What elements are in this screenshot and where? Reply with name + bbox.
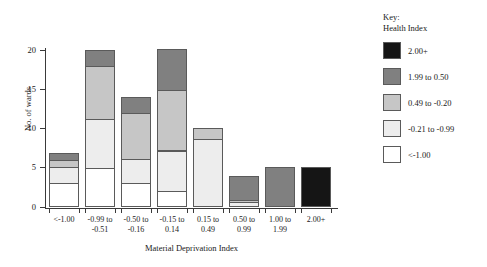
y-axis-title: No. of wards (23, 64, 33, 154)
x-tick-mark (259, 208, 260, 213)
legend-label: 1.99 to 0.50 (408, 72, 449, 82)
legend-label: <-1.00 (408, 150, 431, 160)
legend-swatch (383, 94, 401, 111)
x-axis-title: Material Deprivation Index (45, 243, 338, 253)
bar-segment (157, 151, 187, 193)
bar-stack (229, 176, 259, 207)
x-tick-mark (265, 208, 266, 213)
bar-segment (157, 49, 187, 91)
bar-segment (49, 167, 79, 184)
bar-segment (301, 167, 331, 207)
legend-label: 2.00+ (408, 46, 428, 56)
bar-segment (121, 113, 151, 160)
x-tick-mark (295, 208, 296, 213)
x-tick-mark (229, 208, 230, 213)
bar-segment (85, 168, 115, 207)
bars-container (46, 50, 334, 207)
x-tick-mark (85, 208, 86, 213)
y-tick-label-wrap: 10 (0, 129, 40, 130)
bar-segment (157, 191, 187, 207)
bar-segment (121, 97, 151, 113)
y-tick-label: 5 (6, 163, 36, 172)
legend-title-line-2: Health Index (383, 23, 487, 34)
legend-item: 0.49 to -0.20 (383, 93, 487, 112)
x-tick-mark (49, 208, 50, 213)
x-tick-label: 2.00+ (293, 215, 339, 225)
bar-segment (49, 183, 79, 207)
x-tick-mark (121, 208, 122, 213)
legend-label: -0.21 to -0.99 (408, 124, 454, 134)
legend-label: 0.49 to -0.20 (408, 98, 451, 108)
legend-items: 2.00+1.99 to 0.500.49 to -0.20-0.21 to -… (383, 41, 487, 164)
legend-item: 2.00+ (383, 41, 487, 60)
bar-stack (121, 97, 151, 207)
x-tick-mark (79, 208, 80, 213)
bar-segment (265, 167, 295, 207)
x-tick-mark (223, 208, 224, 213)
bar-stack (193, 128, 223, 207)
legend-swatch (383, 120, 401, 137)
stacked-bar-chart: 05101520 No. of wards <-1.00-0.99 to -0.… (0, 0, 487, 267)
bar-stack (157, 49, 187, 207)
y-tick-label-wrap: 0 (0, 207, 40, 208)
bar-stack (301, 167, 331, 207)
x-tick-mark (187, 208, 188, 213)
legend-item: -0.21 to -0.99 (383, 119, 487, 138)
legend-item: <-1.00 (383, 145, 487, 164)
y-tick-label-wrap: 15 (0, 89, 40, 90)
bar-segment (85, 50, 115, 66)
bar-segment (121, 183, 151, 207)
y-tick-label: 20 (6, 46, 36, 55)
y-tick-label-wrap: 5 (0, 168, 40, 169)
legend-swatch (383, 68, 401, 85)
y-tick-label-wrap: 20 (0, 50, 40, 51)
bar-segment (85, 119, 115, 168)
bar-segment (229, 176, 259, 200)
bar-segment (121, 159, 151, 184)
legend-swatch (383, 146, 401, 163)
bar-segment (229, 202, 259, 207)
bar-stack (265, 167, 295, 207)
x-tick-mark (301, 208, 302, 213)
legend: Key: Health Index 2.00+1.99 to 0.500.49 … (383, 12, 487, 164)
legend-swatch (383, 42, 401, 59)
x-tick-mark (115, 208, 116, 213)
y-tick-label: 0 (6, 203, 36, 212)
legend-title-line-1: Key: (383, 12, 487, 23)
bar-stack (85, 50, 115, 207)
x-tick-mark (151, 208, 152, 213)
x-tick-mark (193, 208, 194, 213)
bar-segment (157, 90, 187, 151)
legend-item: 1.99 to 0.50 (383, 67, 487, 86)
bar-stack (49, 153, 79, 207)
bar-segment (193, 139, 223, 207)
x-tick-mark (157, 208, 158, 213)
bar-segment (85, 66, 115, 120)
x-tick-mark (331, 208, 332, 213)
